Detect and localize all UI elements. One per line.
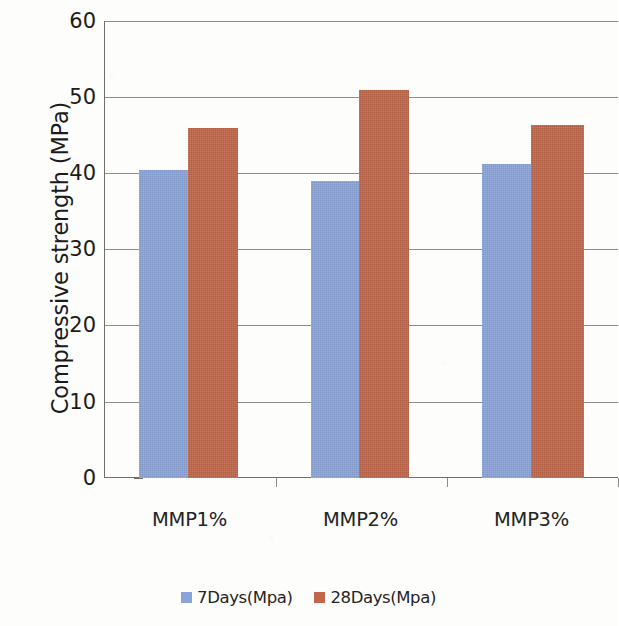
gridline-60 [105, 21, 618, 22]
y-tick-label-30: 30 [52, 237, 96, 261]
y-axis-tick-group: 60 50 40 30 20 10 0 [38, 0, 96, 626]
bar-mmp2-28days [359, 90, 409, 478]
y-tick-mark-0 [134, 478, 143, 479]
bar-mmp3-28days [531, 125, 584, 478]
bar-mmp3-7days [482, 164, 531, 478]
legend-label-7days: 7Days(Mpa) [197, 588, 292, 607]
legend-label-28days: 28Days(Mpa) [330, 588, 435, 607]
y-tick-label-20: 20 [52, 313, 96, 337]
bar-mmp1-7days [139, 170, 188, 479]
y-tick-label-10: 10 [52, 390, 96, 414]
bar-mmp1-28days [188, 128, 238, 478]
bar-mmp2-7days [311, 181, 359, 478]
x-tick-label-mmp1: MMP1% [104, 508, 275, 531]
legend-entry-28days: 28Days(Mpa) [314, 588, 435, 607]
y-tick-label-0: 0 [52, 466, 96, 490]
legend-entry-7days: 7Days(Mpa) [181, 588, 292, 607]
legend-swatch-icon-28days [314, 592, 325, 603]
y-tick-label-40: 40 [52, 161, 96, 185]
legend-swatch-icon-7days [181, 592, 192, 603]
plot-area [104, 21, 617, 478]
x-axis-separator-2 [447, 478, 448, 487]
y-tick-label-50: 50 [52, 85, 96, 109]
chart-legend: 7Days(Mpa) 28Days(Mpa) [0, 588, 617, 607]
y-tick-label-60: 60 [52, 9, 96, 33]
x-tick-label-mmp2: MMP2% [275, 508, 446, 531]
x-axis-separator-1 [276, 478, 277, 487]
x-tick-label-mmp3: MMP3% [446, 508, 617, 531]
